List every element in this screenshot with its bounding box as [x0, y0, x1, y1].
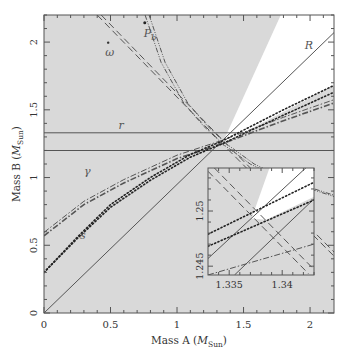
curve-label: s [80, 229, 86, 242]
x-tick-label: 0 [41, 319, 47, 330]
inset-x-tick-label: 1.34 [272, 279, 293, 290]
y-tick-label: 0.5 [28, 237, 39, 253]
omega-marker-dot [107, 41, 109, 43]
pb-marker-dot [143, 21, 146, 24]
curve-label: ω [105, 46, 114, 59]
y-tick-labels: 00.511.52 [28, 39, 39, 316]
x-tick-label: 2 [307, 319, 313, 330]
x-tick-label: 1.5 [236, 319, 252, 330]
x-tick-labels: 00.511.52 [41, 319, 313, 330]
inset-x-tick-label: 1.335 [216, 279, 243, 290]
curve-label: γ [84, 165, 91, 178]
inset-y-tick-label: 1.25 [194, 200, 205, 221]
curve-label: R [304, 39, 313, 52]
x-tick-label: 1 [174, 319, 180, 330]
x-tick-label: 0.5 [103, 319, 119, 330]
y-tick-label: 2 [28, 39, 39, 45]
inset-y-tick-label: 1.245 [194, 253, 205, 280]
y-tick-label: 1.5 [28, 102, 39, 118]
x-axis-title: Mass A (MSun) [151, 334, 227, 349]
curve-label: r [118, 119, 124, 132]
mass-mass-diagram: 00.511.52 00.511.52 Mass A (MSun) Mass B… [0, 0, 352, 362]
y-tick-label: 0 [28, 310, 39, 316]
y-axis-title: Mass B (MSun) [10, 126, 25, 202]
inset-zoom: 1.3351.341.2451.25 [194, 160, 314, 290]
y-tick-label: 1 [28, 174, 39, 180]
